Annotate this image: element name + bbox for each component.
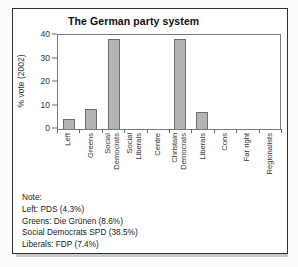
y-tick-label: 10 xyxy=(41,100,50,110)
note-line: Greens: Die Grünen (8.6%) xyxy=(22,216,138,228)
x-axis-category: Far right xyxy=(236,133,258,193)
x-axis-category: SocialLiberals xyxy=(124,133,146,193)
x-axis-label: Cons xyxy=(221,133,230,151)
y-axis-label: % vote (2002) xyxy=(16,55,26,108)
y-tick-label: 0 xyxy=(45,123,50,133)
y-tick-label: 30 xyxy=(41,53,50,63)
y-tick-label: 20 xyxy=(41,76,50,86)
y-tick-label: 40 xyxy=(41,29,50,39)
note-line: Liberals: FDP (7.4%) xyxy=(22,239,138,251)
x-axis-category: SocialDemocrats xyxy=(102,133,124,193)
x-axis-category: Left xyxy=(57,133,79,193)
note-line: Social Democrats SPD (38.5%) xyxy=(22,227,138,239)
x-axis-label: Left xyxy=(64,133,73,146)
x-axis-labels: LeftGreensSocialDemocratsSocialLiberalsC… xyxy=(57,133,281,193)
x-tick-mark xyxy=(281,129,282,133)
bar xyxy=(174,39,186,129)
x-axis-category: Liberals xyxy=(191,133,213,193)
x-axis-category: Centre xyxy=(147,133,169,193)
note-lines: Left: PDS (4.3%)Greens: Die Grünen (8.6%… xyxy=(22,204,138,251)
y-axis-ticks: 010203040 xyxy=(29,34,57,128)
x-axis-category: Regionalists xyxy=(259,133,281,193)
bar xyxy=(63,119,75,129)
x-axis-category: ChristainDemocrats xyxy=(169,133,191,193)
plot-area xyxy=(57,34,281,130)
x-axis-label: SocialDemocrats xyxy=(104,133,121,170)
bar xyxy=(108,39,120,129)
x-axis-category: Greens xyxy=(79,133,101,193)
bar xyxy=(196,112,208,129)
note: Note: Left: PDS (4.3%)Greens: Die Grünen… xyxy=(22,192,138,251)
x-axis-label: Greens xyxy=(86,133,95,158)
note-line: Left: PDS (4.3%) xyxy=(22,204,138,216)
chart-title: The German party system xyxy=(68,15,199,27)
x-axis-label: Liberals xyxy=(198,133,207,160)
x-axis-label: Regionalists xyxy=(266,133,275,174)
x-axis-label: Far right xyxy=(243,133,252,161)
y-axis-label-wrap: % vote (2002) xyxy=(13,34,29,128)
x-axis-label: ChristainDemocrats xyxy=(172,133,189,170)
x-axis-label: Centre xyxy=(154,133,163,156)
x-axis-category: Cons xyxy=(214,133,236,193)
note-heading: Note: xyxy=(22,192,138,204)
x-axis-label: SocialLiberals xyxy=(127,133,144,160)
figure-box: The German party system % vote (2002) 01… xyxy=(12,8,288,254)
page: The German party system % vote (2002) 01… xyxy=(0,0,298,267)
bar xyxy=(85,109,97,129)
